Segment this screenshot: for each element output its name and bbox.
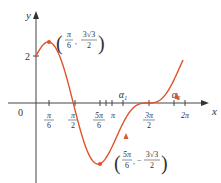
svg-text:2: 2 [147, 121, 151, 130]
svg-text:6: 6 [47, 121, 51, 130]
svg-text:): ) [98, 32, 105, 55]
max-point-annotation: ( π 6 , 3√3 2 ) [56, 30, 105, 55]
min-point-annotation: ( 5π 6 , − 3√3 2 ) [114, 150, 168, 175]
x-tick-label-3pi-2: 3π 2 [143, 111, 155, 130]
x-tick-label-pi-6: π 6 [44, 111, 54, 130]
alpha1-label: α₁ [119, 89, 128, 100]
svg-text:(: ( [114, 152, 121, 175]
min-point [98, 162, 102, 166]
y-tick-label-2: 2 [25, 51, 30, 62]
max-point [47, 40, 51, 44]
x-tick-label-2pi: 2π [181, 111, 190, 120]
svg-text:π: π [47, 111, 52, 120]
svg-text:,: , [133, 157, 135, 166]
svg-text:2: 2 [150, 161, 154, 170]
direction-arrow-icon [124, 133, 129, 139]
function-graph: x y 0 2 π 6 π 2 5π 6 π 3π 2 2π α₁ α₂ [0, 0, 221, 183]
svg-text:3√3: 3√3 [83, 30, 95, 39]
svg-text:3π: 3π [144, 111, 154, 120]
svg-text:(: ( [56, 32, 63, 55]
origin-label: 0 [18, 107, 23, 118]
svg-text:6: 6 [67, 41, 71, 50]
x-tick-label-pi: π [111, 111, 116, 120]
svg-text:−: − [137, 156, 142, 165]
svg-text:2: 2 [71, 121, 75, 130]
svg-text:π: π [67, 30, 72, 39]
svg-text:5π: 5π [95, 111, 104, 120]
svg-text:2: 2 [87, 41, 91, 50]
svg-text:6: 6 [97, 121, 101, 130]
svg-text:,: , [75, 37, 77, 46]
svg-text:5π: 5π [123, 150, 132, 159]
y-axis-label: y [25, 9, 31, 21]
svg-text:3√3: 3√3 [146, 150, 158, 159]
x-tick-label-5pi-6: 5π 6 [93, 111, 105, 130]
y-axis-arrow-icon [33, 11, 39, 19]
svg-text:): ) [161, 152, 168, 175]
x-axis-arrow-icon [201, 100, 209, 106]
svg-text:6: 6 [125, 161, 129, 170]
x-axis-label: x [211, 105, 217, 117]
